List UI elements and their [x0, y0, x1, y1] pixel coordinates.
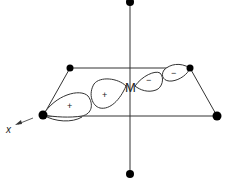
metal-lobe-plus	[91, 79, 126, 108]
atom-top	[126, 0, 134, 6]
octahedral-diagram	[0, 0, 229, 185]
atom-back-left	[67, 65, 74, 72]
lobe-sign-2: +	[102, 91, 107, 100]
lobe-sign-4: −	[171, 69, 176, 78]
x-axis-label: x	[6, 125, 11, 135]
atom-front-left	[39, 111, 48, 120]
atom-back-right	[187, 65, 194, 72]
center-atom-label: M	[125, 81, 136, 94]
lobe-sign-1: +	[67, 102, 72, 111]
atom-bottom	[126, 170, 134, 178]
atom-front-right	[213, 112, 222, 121]
x-axis-arrowhead-icon	[15, 120, 22, 125]
lobe-sign-3: −	[146, 76, 151, 85]
